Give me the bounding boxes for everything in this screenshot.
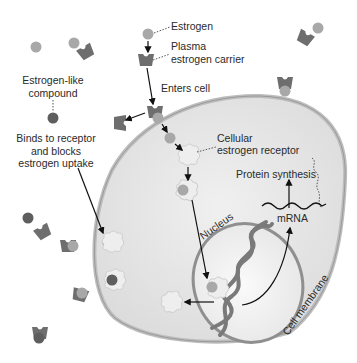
label-plasma-carrier-1: Plasma	[171, 40, 206, 52]
label-plasma-carrier-2: estrogen carrier	[171, 53, 245, 65]
label-mrna: mRNA	[277, 212, 308, 224]
estrogen-molecule	[143, 29, 154, 40]
label-enters-cell: Enters cell	[161, 82, 210, 94]
label-protein-synthesis: Protein synthesis	[236, 168, 316, 180]
label-cellular-receptor-2: estrogen receptor	[217, 144, 300, 156]
label-estrogen-like-2: compound	[28, 87, 77, 99]
plasma-carrier	[138, 54, 154, 66]
label-cellular-receptor-1: Cellular	[217, 132, 253, 144]
entering-complex	[147, 106, 164, 124]
cellular-receptor	[178, 144, 200, 165]
label-binds-1: Binds to receptor	[16, 132, 96, 144]
label-binds-3: estrogen uptake	[18, 157, 93, 169]
label-binds-2: and blocks	[31, 145, 81, 157]
label-estrogen-like-1: Estrogen-like	[22, 74, 83, 86]
estrogen-pathway-diagram: Estrogen Plasma estrogen carrier Enters …	[0, 0, 357, 363]
label-estrogen: Estrogen	[171, 20, 213, 32]
